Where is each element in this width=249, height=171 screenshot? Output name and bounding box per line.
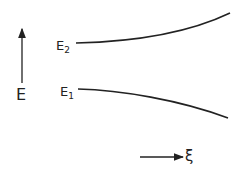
e2-subscript: 2: [64, 45, 70, 55]
xi-axis-label: ξ: [185, 149, 193, 164]
curve-e1: [78, 89, 228, 118]
curve-e2: [76, 13, 230, 43]
e2-label: E2: [56, 39, 70, 52]
e2-base: E: [56, 38, 64, 53]
energy-axis-label: E: [16, 87, 26, 103]
e1-subscript: 1: [68, 91, 74, 101]
energy-level-diagram: [0, 0, 249, 171]
e1-base: E: [60, 84, 68, 99]
e1-label: E1: [60, 85, 74, 98]
